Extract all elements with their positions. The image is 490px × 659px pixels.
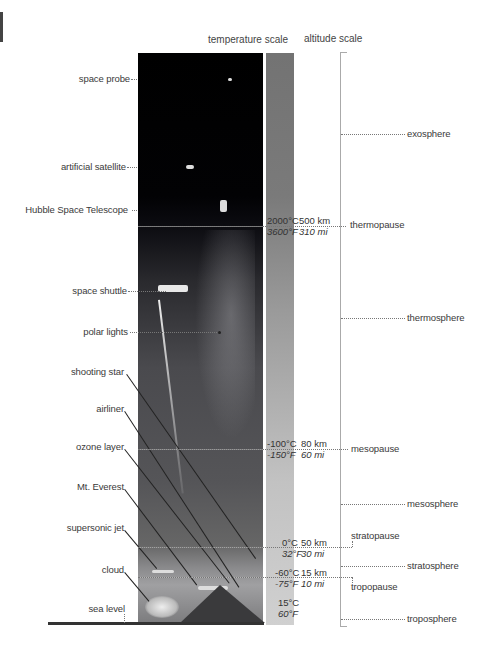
exosphere-connector <box>341 134 405 135</box>
label-thermosphere: thermosphere <box>407 312 464 323</box>
temperature-scale-header: temperature scale <box>208 34 288 45</box>
cloud-illustration <box>145 596 179 618</box>
sea-level-ground <box>48 622 264 625</box>
fahrenheit-value: 32°F <box>282 548 302 559</box>
thermosphere-connector <box>341 318 405 319</box>
label-mt-everest: Mt. Everest <box>77 481 124 492</box>
km-value: 80 km <box>301 438 327 449</box>
corner-marker <box>0 12 3 42</box>
celsius-value: -100°C <box>267 438 297 449</box>
label-shooting-star: shooting star <box>71 366 124 377</box>
label-space-shuttle: space shuttle <box>72 285 127 296</box>
label-space-probe: space probe <box>79 73 130 84</box>
stratosphere-connector <box>341 566 405 567</box>
fahrenheit-value: -150°F <box>267 449 297 460</box>
km-value: 500 km <box>299 215 330 226</box>
label-sea-level: sea level <box>88 603 125 614</box>
mi-value: 30 mi <box>301 548 327 559</box>
stratopause-connector <box>138 547 352 548</box>
thermopause-connector <box>138 226 346 227</box>
leader-sea-level <box>124 614 125 623</box>
mesopause-connector <box>138 449 348 450</box>
label-ozone-layer: ozone layer <box>76 441 124 452</box>
satellite-icon <box>186 165 194 169</box>
polar-lights-dot <box>218 331 221 334</box>
fahrenheit-value: -75°F <box>275 578 299 589</box>
supersonic-jet-icon <box>152 570 174 573</box>
mi-value: 310 mi <box>299 226 330 237</box>
label-airliner: airliner <box>96 403 124 414</box>
temp-tropopause: -60°C -75°F <box>275 567 299 589</box>
stratopause-tick <box>352 541 353 547</box>
label-artificial-satellite: artificial satellite <box>61 161 126 172</box>
label-mesopause: mesopause <box>351 443 399 454</box>
polar-lights-illustration <box>195 230 255 440</box>
label-cloud: cloud <box>102 564 124 575</box>
mi-value: 10 mi <box>301 578 327 589</box>
leader-polar-lights <box>130 332 219 333</box>
space-probe-icon <box>228 78 232 81</box>
label-tropopause: tropopause <box>351 581 398 592</box>
mesosphere-connector <box>341 504 405 505</box>
leader-space-shuttle <box>128 291 166 292</box>
leader-space-probe <box>131 79 137 80</box>
temp-sea-level: 15°C 60°F <box>278 597 299 619</box>
label-thermopause: thermopause <box>350 219 404 230</box>
label-polar-lights: polar lights <box>83 326 128 337</box>
leader-hubble <box>132 210 137 211</box>
alt-stratopause: 50 km 30 mi <box>301 537 327 559</box>
alt-tropopause: 15 km 10 mi <box>301 567 327 589</box>
fahrenheit-value: 60°F <box>278 608 299 619</box>
hubble-icon <box>220 200 227 212</box>
fahrenheit-value: 3600°F <box>267 226 299 237</box>
tropopause-connector <box>138 577 352 578</box>
altitude-bracket <box>340 52 347 627</box>
label-hubble: Hubble Space Telescope <box>25 204 128 215</box>
label-troposphere: troposphere <box>407 613 457 624</box>
label-mesosphere: mesosphere <box>407 498 458 509</box>
troposphere-connector <box>341 619 405 620</box>
altitude-scale-header: altitude scale <box>304 33 362 44</box>
mountain-illustration <box>180 585 265 623</box>
label-stratosphere: stratosphere <box>407 560 459 571</box>
label-stratopause: stratopause <box>351 530 400 541</box>
label-supersonic-jet: supersonic jet <box>67 522 124 533</box>
temp-stratopause: 0°C 32°F <box>282 537 302 559</box>
celsius-value: 2000°C <box>267 215 299 226</box>
label-exosphere: exosphere <box>407 128 450 139</box>
celsius-value: 15°C <box>278 597 299 608</box>
leader-satellite <box>127 167 137 168</box>
mi-value: 60 mi <box>301 449 327 460</box>
